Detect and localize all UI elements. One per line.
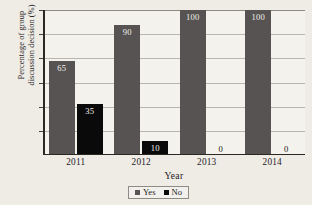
bar-series-container: 65 35 90 10 100 0	[43, 10, 305, 155]
legend-item-no[interactable]: No	[164, 188, 183, 197]
legend-label-no: No	[172, 188, 183, 197]
bar-group-2011: 65 35	[46, 10, 106, 155]
x-tick-label-2013: 2013	[177, 157, 237, 167]
bar-2011-yes[interactable]: 65	[49, 61, 75, 155]
bar-value-label: 0	[219, 144, 224, 154]
bar-value-label: 65	[57, 63, 66, 73]
bar-value-label: 100	[252, 12, 266, 22]
x-axis-tick-labels: 2011 2012 2013 2014	[43, 157, 305, 170]
x-axis-line	[43, 154, 305, 156]
bar-value-label: 100	[186, 12, 200, 22]
bar-group-2013: 100 0	[177, 10, 237, 155]
x-axis-title: Year	[43, 170, 305, 181]
bar-group-2012: 90 10	[111, 10, 171, 155]
bar-chart-figure: Percentage of group discussion decision …	[0, 0, 312, 205]
legend-swatch-icon-yes	[135, 190, 140, 195]
bar-2012-yes[interactable]: 90	[114, 25, 140, 156]
y-axis-title-line1: Percentage of group	[17, 4, 27, 85]
bar-2014-yes[interactable]: 100	[245, 10, 271, 155]
plot-area: 65 35 90 10 100 0	[43, 10, 305, 155]
x-tick-label-2011: 2011	[46, 157, 106, 167]
x-tick-label-2012: 2012	[111, 157, 171, 167]
y-axis-line	[43, 10, 45, 155]
legend-item-yes[interactable]: Yes	[135, 188, 156, 197]
bar-value-label: 90	[123, 27, 132, 37]
chart-legend[interactable]: Yes No	[128, 186, 189, 199]
bar-value-label: 10	[151, 143, 160, 153]
y-axis-title-line2: discussion decision (%)	[27, 4, 37, 85]
bar-value-label: 0	[284, 144, 289, 154]
x-tick-label-2014: 2014	[242, 157, 302, 167]
y-axis-title: Percentage of group discussion decision …	[14, 0, 40, 108]
legend-label-yes: Yes	[143, 188, 156, 197]
bar-2013-yes[interactable]: 100	[180, 10, 206, 155]
bar-2011-no[interactable]: 35	[77, 104, 103, 155]
bar-value-label: 35	[85, 106, 94, 116]
legend-swatch-icon-no	[164, 190, 169, 195]
bar-group-2014: 100 0	[242, 10, 302, 155]
